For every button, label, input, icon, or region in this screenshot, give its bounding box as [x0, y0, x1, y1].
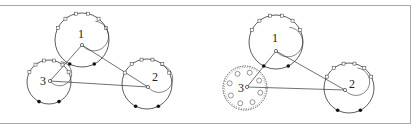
inner-arc	[82, 21, 109, 51]
notch-icon	[299, 28, 302, 31]
edge-2-3	[50, 81, 148, 87]
notch-icon	[258, 19, 261, 22]
marker-icon	[286, 64, 290, 68]
notch-icon	[130, 63, 133, 66]
notch-icon	[247, 70, 252, 75]
notch-icon	[363, 67, 366, 70]
center-dot	[245, 85, 248, 88]
marker-icon	[134, 104, 138, 108]
node-3: 3	[27, 59, 72, 104]
node-circle	[223, 66, 267, 110]
panel-left: 123	[27, 12, 173, 109]
notch-icon	[228, 93, 233, 98]
notch-icon	[64, 17, 67, 20]
notch-icon	[235, 71, 240, 76]
notch-icon	[280, 14, 283, 17]
notch-icon	[34, 63, 37, 66]
notch-icon	[67, 71, 70, 74]
notch-icon	[258, 90, 263, 95]
notch-icon	[238, 101, 243, 106]
node-label: 2	[349, 77, 355, 91]
notch-icon	[86, 12, 89, 15]
center-dot	[343, 88, 346, 91]
notch-icon	[52, 59, 55, 62]
marker-icon	[262, 64, 266, 68]
notch-icon	[61, 63, 64, 66]
notch-icon	[123, 71, 126, 74]
marker-icon	[57, 100, 61, 104]
notch-icon	[342, 62, 345, 65]
node-label: 2	[152, 70, 158, 84]
marker-icon	[359, 108, 363, 112]
notch-icon	[291, 19, 294, 22]
notch-icon	[257, 78, 262, 83]
center-dot	[48, 79, 51, 82]
notch-icon	[250, 100, 255, 105]
marker-icon	[336, 108, 340, 112]
marker-icon	[157, 104, 161, 108]
notch-icon	[325, 75, 328, 78]
node-2: 2	[324, 62, 374, 113]
notch-icon	[43, 59, 46, 62]
center-dot	[80, 43, 83, 46]
node-3: 3	[223, 66, 267, 110]
notch-icon	[56, 26, 59, 29]
node-label: 3	[238, 81, 244, 95]
edge-2-3	[247, 87, 345, 90]
node-label: 1	[272, 31, 278, 45]
texture-ring	[225, 68, 266, 109]
inner-arc	[276, 27, 303, 57]
notch-icon	[353, 62, 356, 65]
edge-1-2	[82, 45, 148, 87]
node-1: 1	[55, 12, 109, 67]
center-dot	[146, 85, 149, 88]
center-dot	[274, 49, 277, 52]
node-2: 2	[122, 58, 173, 109]
notch-icon	[151, 58, 154, 61]
notch-icon	[140, 58, 143, 61]
node-1: 1	[249, 14, 303, 69]
notch-icon	[168, 71, 171, 74]
notch-icon	[250, 28, 253, 31]
notch-icon	[332, 67, 335, 70]
notch-icon	[75, 12, 78, 15]
notch-icon	[97, 17, 100, 20]
notch-icon	[370, 75, 373, 78]
panel-right: 123	[223, 14, 374, 113]
marker-icon	[92, 62, 96, 66]
graph-diagram: 123123	[0, 0, 420, 131]
notch-icon	[227, 81, 232, 86]
notch-icon	[269, 14, 272, 17]
marker-icon	[37, 100, 41, 104]
node-circle	[122, 59, 172, 109]
notch-icon	[28, 71, 31, 74]
node-label: 1	[78, 27, 84, 41]
node-label: 3	[40, 74, 46, 88]
